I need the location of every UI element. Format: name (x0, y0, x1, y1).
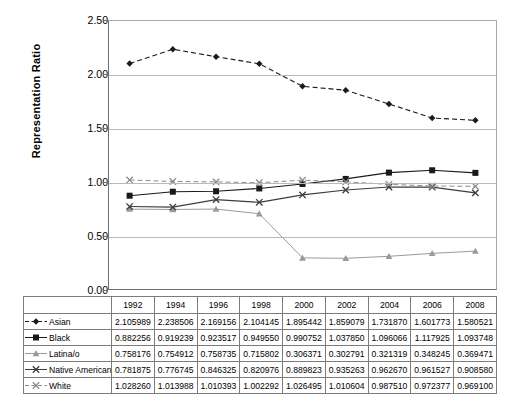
legend-cell-asian: Asian (24, 314, 112, 330)
table-cell: 1.010604 (325, 378, 368, 394)
data-point-marker (170, 189, 176, 195)
data-point-marker (472, 183, 478, 189)
series-line-latina-o (130, 209, 476, 258)
table-corner-cell (24, 297, 112, 314)
table-cell: 0.987510 (368, 378, 411, 394)
legend-label: White (49, 381, 71, 391)
table-row: Native American0.7818750.7767450.8463250… (24, 362, 497, 378)
table-cell: 0.972377 (411, 378, 454, 394)
series-layer (109, 21, 496, 289)
table-header-row: 199219941996199820002002200420062008 (24, 297, 497, 314)
table-cell: 0.369471 (454, 346, 497, 362)
table-cell: 1.002292 (240, 378, 283, 394)
table-cell: 1.026495 (283, 378, 326, 394)
y-axis-tick-label: 2.00 (64, 68, 108, 80)
table-col-header-2008: 2008 (454, 297, 497, 314)
table-cell: 2.105989 (112, 314, 155, 330)
legend-cell-white: White (24, 378, 112, 394)
table-cell: 1.601773 (411, 314, 454, 330)
gridline (109, 129, 496, 130)
data-point-marker (386, 170, 392, 176)
table-row: Latina/o0.7581760.7549120.7587350.715802… (24, 346, 497, 362)
table-cell: 0.990752 (283, 330, 326, 346)
table-col-header-1996: 1996 (197, 297, 240, 314)
table-cell: 0.882256 (112, 330, 155, 346)
table-cell: 0.348245 (411, 346, 454, 362)
data-table: 199219941996199820002002200420062008 Asi… (23, 296, 497, 394)
data-point-marker (386, 101, 392, 107)
data-point-marker (33, 318, 39, 324)
table-cell: 0.302791 (325, 346, 368, 362)
data-point-marker (256, 61, 262, 67)
table-cell: 0.962670 (368, 362, 411, 378)
table-cell: 2.104145 (240, 314, 283, 330)
data-point-marker (213, 188, 219, 194)
table-cell: 0.321319 (368, 346, 411, 362)
table-cell: 0.820976 (240, 362, 283, 378)
table-cell: 0.306371 (283, 346, 326, 362)
table-cell: 0.949550 (240, 330, 283, 346)
table-cell: 0.781875 (112, 362, 155, 378)
legend-label: Latina/o (49, 349, 80, 359)
table-col-header-2006: 2006 (411, 297, 454, 314)
data-point-marker (299, 83, 305, 89)
legend-marker-diamond-icon (25, 316, 47, 327)
table-cell: 1.580521 (454, 314, 497, 330)
table-cell: 1.895442 (283, 314, 326, 330)
legend-label: Asian (49, 317, 71, 327)
data-point-marker (126, 60, 132, 66)
y-axis-tick-label: 0.50 (64, 230, 108, 242)
table-col-header-2000: 2000 (283, 297, 326, 314)
data-point-marker (472, 170, 478, 176)
legend-cell-native-american: Native American (24, 362, 112, 378)
data-point-marker (127, 193, 133, 199)
y-axis-tick-mark (103, 290, 108, 291)
table-cell: 0.754912 (154, 346, 197, 362)
table-cell: 0.919239 (154, 330, 197, 346)
data-point-marker (343, 87, 349, 93)
table-cell: 1.096066 (368, 330, 411, 346)
table-cell: 0.758735 (197, 346, 240, 362)
table-cell: 1.037850 (325, 330, 368, 346)
table-cell: 1.010393 (197, 378, 240, 394)
data-point-marker (33, 335, 39, 341)
table-row: Asian2.1059892.2385062.1691562.1041451.8… (24, 314, 497, 330)
y-axis-ticks: 0.000.501.001.502.002.50 (0, 20, 108, 290)
data-point-marker (213, 54, 219, 60)
y-axis-tick-label: 2.50 (64, 14, 108, 26)
table-col-header-2004: 2004 (368, 297, 411, 314)
table-cell: 0.889823 (283, 362, 326, 378)
table-col-header-1994: 1994 (154, 297, 197, 314)
legend-cell-black: Black (24, 330, 112, 346)
y-axis-tick-label: 1.50 (64, 122, 108, 134)
table-cell: 1.013988 (154, 378, 197, 394)
data-point-marker (472, 117, 478, 123)
data-point-marker (429, 115, 435, 121)
table-row: White1.0282601.0139881.0103931.0022921.0… (24, 378, 497, 394)
table-cell: 1.117925 (411, 330, 454, 346)
table-row: Black0.8822560.9192390.9235170.9495500.9… (24, 330, 497, 346)
table-cell: 1.028260 (112, 378, 155, 394)
table-cell: 0.715802 (240, 346, 283, 362)
legend-marker-triangle-icon (25, 348, 47, 359)
gridline (109, 75, 496, 76)
y-axis-tick-label: 1.00 (64, 176, 108, 188)
y-axis-tick-label: 0.00 (64, 284, 108, 296)
table-cell: 2.238506 (154, 314, 197, 330)
data-point-marker (256, 185, 262, 191)
table-col-header-2002: 2002 (325, 297, 368, 314)
legend-label: Native American (49, 365, 112, 375)
table-cell: 0.908580 (454, 362, 497, 378)
legend-marker-x-icon (25, 380, 47, 391)
table-cell: 0.776745 (154, 362, 197, 378)
table-cell: 1.093748 (454, 330, 497, 346)
table-cell: 0.969100 (454, 378, 497, 394)
legend-marker-square-icon (25, 332, 47, 343)
table-cell: 1.731870 (368, 314, 411, 330)
data-point-marker (429, 167, 435, 173)
plot-area (108, 20, 497, 290)
table-cell: 0.923517 (197, 330, 240, 346)
series-line-native-american (130, 187, 476, 207)
legend-cell-latina-o: Latina/o (24, 346, 112, 362)
